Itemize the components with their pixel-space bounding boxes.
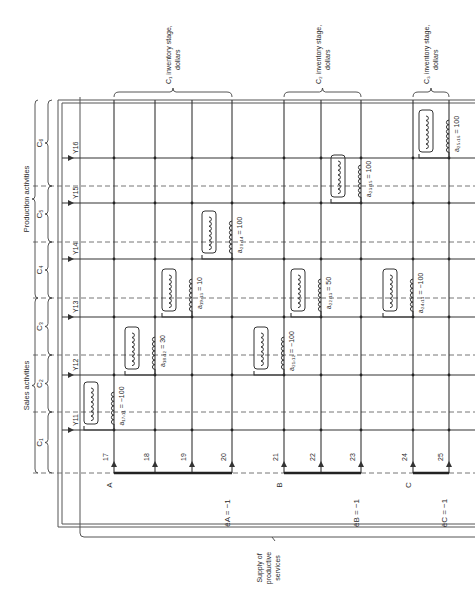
- junction-dot: [113, 202, 116, 205]
- column-group-brace: [413, 88, 449, 97]
- row-label-11: Y11: [72, 414, 79, 426]
- junction-dot: [154, 429, 157, 432]
- coupling-a19,13: a₁₉,₁₃ = 10: [162, 269, 203, 317]
- coefficient-label: a₂₀,₁₄ = 100: [236, 217, 243, 253]
- coil-icon: [209, 217, 211, 250]
- junction-dot: [360, 316, 363, 319]
- column-group-label-3: C₃ inventory stage,: [423, 25, 431, 84]
- coil-lead: [254, 371, 284, 375]
- coefficient-label: a₂₂,₁₃ = 50: [325, 277, 332, 309]
- coupling-a20,14: a₂₀,₁₄ = 100: [202, 211, 243, 259]
- coil-icon: [91, 388, 93, 421]
- coupling-a18,12: a₁₈,₁₂ = 30: [125, 327, 166, 375]
- coil-icon: [132, 333, 134, 366]
- coil-lead: [419, 154, 449, 158]
- junction-dot: [191, 157, 194, 160]
- column-label-18: 18: [143, 453, 150, 461]
- junction-dot: [113, 157, 116, 160]
- column-group-label-2: C₂ inventory stage,: [315, 25, 323, 84]
- junction-dot: [360, 374, 363, 377]
- column-group-brace: [284, 88, 361, 97]
- junction-dot: [154, 258, 157, 261]
- arrow-icon: [68, 427, 74, 433]
- junction-dot: [448, 374, 451, 377]
- coupling-a21,12: a₂₁,₁₂ = −100: [254, 327, 295, 375]
- column-label-22: 22: [309, 453, 316, 461]
- row-subgroup-label-5: C₅: [35, 210, 44, 219]
- bus-label-A: A: [105, 482, 114, 488]
- arrow-icon: [358, 461, 364, 467]
- junction-dot: [412, 157, 415, 160]
- coil-lead: [383, 313, 413, 317]
- junction-dot: [360, 429, 363, 432]
- row-subgroup-label-4: C₄: [35, 265, 44, 274]
- junction-dot: [191, 258, 194, 261]
- junction-dot: [113, 316, 116, 319]
- junction-dot: [412, 429, 415, 432]
- arrow-icon: [111, 461, 117, 467]
- junction-dot: [320, 157, 323, 160]
- junction-dot: [283, 202, 286, 205]
- coil-lead: [291, 313, 321, 317]
- junction-dot: [113, 374, 116, 377]
- coupling-a25,16: a₂₅,₁₆ = 100: [419, 110, 460, 158]
- supply-brace: [272, 537, 275, 541]
- row-subgroup-brace: [45, 412, 52, 473]
- column-label-21: 21: [272, 453, 279, 461]
- coil-icon: [390, 275, 392, 308]
- coefficient-label: a₂₃,₁₅ = 100: [365, 161, 372, 197]
- junction-dot: [283, 429, 286, 432]
- row-subgroup-label-1: C₁: [35, 438, 44, 447]
- row-label-15: Y15: [72, 186, 79, 199]
- row-subgroup-label-2: C₂: [35, 379, 44, 388]
- row-subgroup-brace: [45, 242, 52, 298]
- coupling-a17,11: a₁₇,₁₁ = −100: [84, 382, 125, 430]
- arrow-icon: [281, 461, 287, 467]
- column-group-brace: [114, 88, 232, 97]
- bus-label-B: B: [275, 482, 284, 487]
- junction-dot: [320, 429, 323, 432]
- linear-programming-network-diagram: Y11Y12Y13Y14Y15Y16171819202122232425AêA…: [0, 0, 475, 594]
- junction-dot: [154, 157, 157, 160]
- junction-dot: [412, 258, 415, 261]
- junction-dot: [360, 157, 363, 160]
- coil-icon: [169, 275, 171, 308]
- column-group-sublabel: dollars: [324, 49, 331, 70]
- arrow-icon: [229, 461, 235, 467]
- coefficient-label: a₁₉,₁₃ = 10: [196, 277, 203, 309]
- column-label-19: 19: [180, 453, 187, 461]
- coil-icon: [426, 116, 428, 149]
- row-group-label-2: Production activities: [22, 165, 31, 232]
- column-label-25: 25: [437, 453, 444, 461]
- junction-dot: [154, 202, 157, 205]
- arrow-icon: [68, 155, 74, 161]
- bus-label-C: C: [404, 482, 413, 488]
- bus-potential-B: êB = −1: [352, 498, 361, 527]
- bus-potential-C: êC = −1: [440, 498, 449, 527]
- arrow-icon: [68, 256, 74, 262]
- bus-potential-A: êA = −1: [223, 499, 232, 527]
- row-subgroup-brace: [45, 355, 52, 412]
- junction-dot: [360, 258, 363, 261]
- coupling-a23,15: a₂₃,₁₅ = 100: [331, 155, 372, 203]
- junction-dot: [231, 157, 234, 160]
- coupling-a22,13: a₂₂,₁₃ = 50: [291, 269, 332, 317]
- junction-dot: [191, 374, 194, 377]
- junction-dot: [320, 258, 323, 261]
- row-subgroup-brace: [45, 298, 52, 355]
- arrow-icon: [152, 461, 158, 467]
- junction-dot: [412, 374, 415, 377]
- coil-icon: [338, 161, 340, 194]
- arrow-icon: [410, 461, 416, 467]
- coil-icon: [298, 275, 300, 308]
- junction-dot: [448, 202, 451, 205]
- row-subgroup-brace: [45, 186, 52, 242]
- diagram-canvas: Y11Y12Y13Y14Y15Y16171819202122232425AêA…: [0, 0, 475, 594]
- column-label-20: 20: [220, 453, 227, 461]
- coefficient-label: a₁₇,₁₁ = −100: [118, 386, 125, 425]
- row-subgroup-label-6: C₆: [35, 138, 44, 147]
- row-group-label-1: Sales activities: [22, 360, 31, 410]
- coefficient-label: a₁₈,₁₂ = 30: [159, 335, 166, 367]
- coil-lead: [125, 371, 155, 375]
- supply-label-line2: productive: [265, 552, 273, 584]
